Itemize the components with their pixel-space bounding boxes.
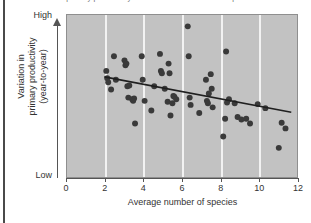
data-point bbox=[168, 112, 174, 118]
scatter-plot-figure: variation in primary productivity decrea… bbox=[0, 0, 311, 223]
x-axis-tick-label: 4 bbox=[133, 183, 153, 194]
data-point bbox=[103, 68, 109, 74]
plot-area bbox=[66, 14, 298, 178]
data-point bbox=[148, 108, 154, 114]
data-point bbox=[159, 70, 165, 76]
data-point bbox=[111, 53, 117, 59]
data-point bbox=[210, 104, 216, 110]
data-point bbox=[279, 120, 285, 126]
data-point bbox=[140, 77, 146, 83]
x-axis-tick-label: 12 bbox=[288, 183, 308, 194]
y-axis-low-label: Low bbox=[12, 170, 52, 180]
data-point bbox=[157, 51, 163, 57]
x-axis-title: Average number of species bbox=[66, 197, 299, 207]
x-axis-tick bbox=[182, 178, 183, 182]
data-point bbox=[196, 110, 202, 116]
data-point bbox=[123, 61, 129, 67]
page-edge-rule bbox=[3, 0, 5, 223]
data-point bbox=[173, 96, 179, 102]
y-axis-title-line-1: Variation in bbox=[16, 7, 27, 147]
data-point bbox=[220, 134, 226, 140]
figure-top-caption: variation in primary productivity decrea… bbox=[28, 0, 308, 3]
x-axis-tick bbox=[143, 178, 144, 182]
x-axis-tick bbox=[298, 178, 299, 182]
data-point bbox=[139, 53, 145, 59]
data-point bbox=[187, 95, 193, 101]
data-point bbox=[142, 98, 148, 104]
data-point bbox=[126, 83, 132, 89]
data-point bbox=[130, 98, 136, 104]
x-axis-tick-label: 0 bbox=[56, 183, 76, 194]
data-point bbox=[205, 100, 211, 106]
x-axis-tick-label: 6 bbox=[172, 183, 192, 194]
y-axis-arrow-shaft bbox=[57, 24, 58, 178]
x-axis-tick bbox=[221, 178, 222, 182]
x-axis-tick-label: 8 bbox=[211, 183, 231, 194]
data-point bbox=[132, 121, 138, 127]
data-point bbox=[209, 86, 215, 92]
data-point bbox=[185, 23, 191, 29]
x-axis-tick bbox=[66, 178, 67, 182]
x-axis-tick bbox=[105, 178, 106, 182]
trend-line bbox=[104, 77, 291, 112]
data-point bbox=[243, 116, 249, 122]
data-point bbox=[203, 77, 209, 83]
data-point bbox=[208, 71, 214, 77]
data-point bbox=[247, 121, 253, 127]
data-point bbox=[222, 116, 228, 122]
y-axis-title-line-3: (year-to-year) bbox=[38, 7, 49, 147]
y-axis-title: Variation in primary productivity (year-… bbox=[16, 7, 49, 147]
data-point bbox=[188, 102, 194, 108]
data-points-layer bbox=[67, 15, 297, 177]
data-point bbox=[276, 145, 282, 151]
y-axis-arrow-head-icon bbox=[53, 18, 61, 26]
data-point bbox=[186, 53, 192, 59]
x-axis-tick-label: 2 bbox=[95, 183, 115, 194]
data-point bbox=[166, 61, 172, 67]
y-axis-title-line-2: primary productivity bbox=[27, 7, 38, 147]
data-point bbox=[223, 48, 229, 54]
data-point bbox=[105, 79, 111, 85]
x-axis-tick-label: 10 bbox=[249, 183, 269, 194]
data-point bbox=[108, 87, 114, 93]
data-point bbox=[283, 125, 289, 131]
x-axis-tick bbox=[259, 178, 260, 182]
data-point bbox=[167, 70, 173, 76]
